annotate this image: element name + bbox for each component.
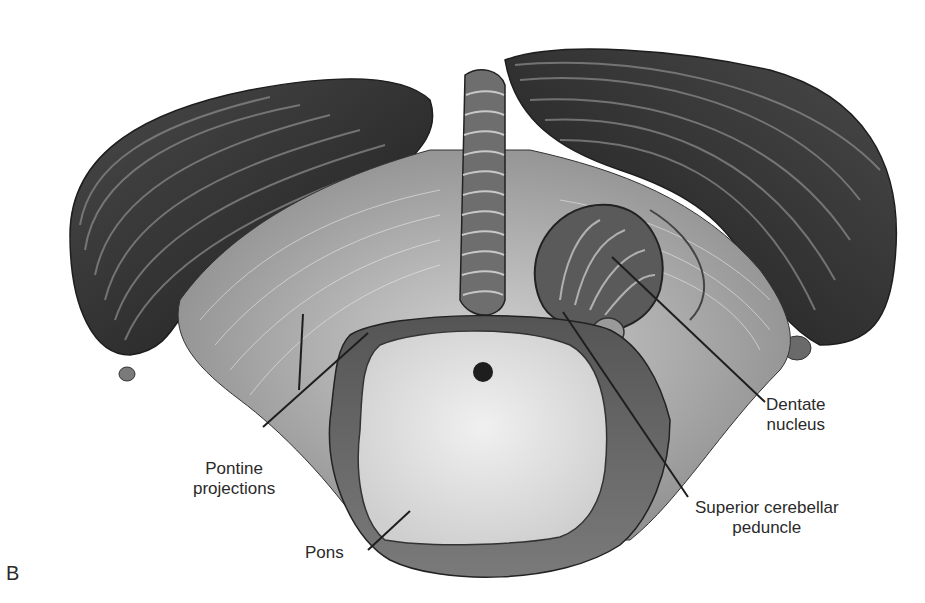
pons-cut-surface — [358, 331, 606, 545]
label-pontine-projections: Pontine projections — [193, 459, 275, 499]
label-scp-line2: peduncle — [695, 518, 839, 538]
label-pontine-line1: Pontine — [193, 459, 275, 479]
label-superior-cerebellar-peduncle: Superior cerebellar peduncle — [695, 498, 839, 538]
label-dentate-line2: nucleus — [766, 415, 826, 435]
label-pons: Pons — [305, 543, 344, 563]
label-dentate-line1: Dentate — [766, 395, 826, 415]
label-scp-line1: Superior cerebellar — [695, 498, 839, 518]
panel-letter: B — [6, 562, 19, 585]
vermis — [460, 70, 505, 315]
label-pons-text: Pons — [305, 543, 344, 562]
cerebral-aqueduct — [473, 362, 493, 382]
label-pontine-line2: projections — [193, 479, 275, 499]
label-dentate-nucleus: Dentate nucleus — [766, 395, 826, 435]
